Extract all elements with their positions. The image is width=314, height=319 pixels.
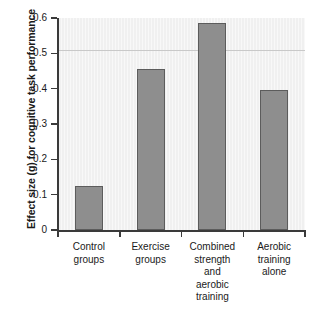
bar [137,69,165,230]
y-axis-tick [51,123,57,125]
x-axis-tick [181,231,183,237]
y-axis-line [57,18,59,231]
bar [260,90,288,230]
bar-chart-figure: Effect size (g) for cognitive task perfo… [0,0,314,319]
y-axis-tick [51,53,57,55]
y-axis-tick-label: 0.4 [33,84,47,94]
reference-line [58,50,305,51]
y-axis-tick [51,88,57,90]
y-axis-tick [51,229,57,231]
x-axis-tick [304,231,306,237]
x-axis-tick [57,231,59,237]
bar [198,23,226,230]
y-axis-tick [51,194,57,196]
y-axis-tick-label: 0 [41,225,47,235]
category-label: Combined strength and aerobic training [182,241,244,304]
y-axis-tick-label: 0.2 [33,154,47,164]
y-axis-tick-label: 0.1 [33,190,47,200]
x-axis-tick [243,231,245,237]
y-axis-tick [51,159,57,161]
category-label: Exercise groups [120,241,182,266]
y-axis-tick [51,17,57,19]
category-label: Control groups [58,241,120,266]
y-axis-tick-label: 0.5 [33,48,47,58]
y-axis-tick-label: 0.6 [33,13,47,23]
bar [75,186,103,230]
x-axis-tick [119,231,121,237]
category-label: Aerobic training alone [243,241,305,279]
y-axis-tick-label: 0.3 [33,119,47,129]
